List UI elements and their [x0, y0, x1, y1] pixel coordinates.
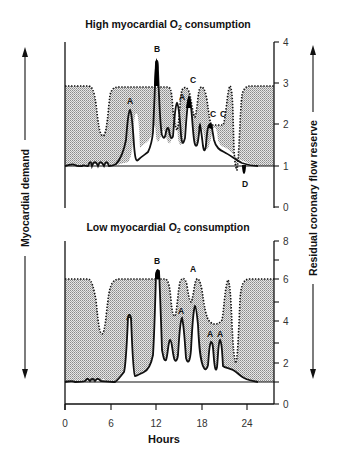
svg-text:6: 6: [283, 274, 289, 285]
svg-text:12: 12: [150, 418, 162, 429]
svg-text:4: 4: [283, 37, 289, 48]
top-shaded-region: [65, 86, 274, 170]
svg-text:1: 1: [283, 161, 289, 172]
x-axis-ticks: [65, 404, 247, 410]
top-right-tick-labels: 4 3 2 1 0: [283, 37, 289, 213]
svg-text:A: A: [178, 306, 184, 316]
svg-text:2: 2: [283, 358, 289, 369]
svg-text:A: A: [127, 96, 133, 106]
svg-text:0: 0: [62, 418, 68, 429]
arrow-up-icon: [22, 47, 28, 57]
svg-text:A: A: [207, 329, 213, 339]
svg-text:8: 8: [283, 236, 289, 247]
svg-text:4: 4: [283, 316, 289, 327]
svg-text:24: 24: [241, 418, 253, 429]
figure: High myocardial O2 consumption 4 3 2 1 0…: [0, 0, 337, 460]
svg-text:6: 6: [108, 418, 114, 429]
arrow-up-icon: [310, 45, 316, 55]
left-axis-title: Myocardial demand: [19, 149, 31, 247]
bottom-shaded-region: [65, 270, 274, 382]
svg-text:C: C: [220, 109, 226, 119]
bottom-right-tick-labels: 8 6 4 2 0: [283, 236, 289, 410]
svg-text:18: 18: [196, 418, 208, 429]
svg-text:0: 0: [283, 202, 289, 213]
svg-text:B: B: [154, 256, 160, 266]
bottom-chart-title: Low myocardial O2 consumption: [86, 221, 249, 234]
x-axis-label: Hours: [148, 433, 180, 445]
svg-text:A: A: [179, 92, 185, 102]
svg-text:B: B: [154, 44, 160, 54]
svg-text:A: A: [217, 329, 223, 339]
x-axis-tick-labels: 0 6 12 18 24: [62, 418, 253, 429]
svg-text:3: 3: [283, 78, 289, 89]
svg-text:2: 2: [283, 119, 289, 130]
svg-text:C: C: [190, 75, 196, 85]
top-chart-title: High myocardial O2 consumption: [85, 18, 251, 31]
top-right-ticks: [274, 42, 279, 207]
svg-text:A: A: [126, 312, 132, 322]
bottom-right-ticks: [274, 241, 279, 404]
svg-text:C: C: [210, 109, 216, 119]
right-axis-title: Residual coronary flow reserve: [307, 120, 319, 276]
arrow-down-icon: [22, 369, 28, 379]
arrow-down-icon: [310, 369, 316, 379]
svg-text:0: 0: [283, 399, 289, 410]
svg-text:A: A: [190, 264, 196, 274]
svg-text:D: D: [242, 179, 248, 189]
